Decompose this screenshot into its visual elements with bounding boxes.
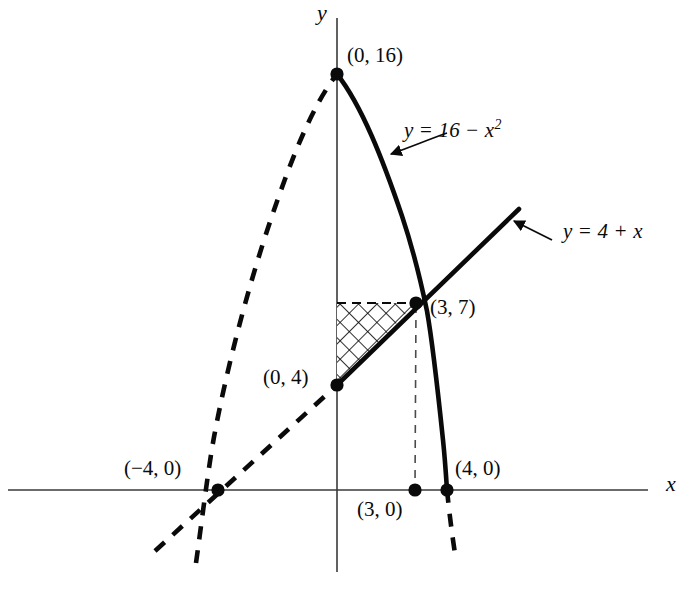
axes-group bbox=[8, 18, 648, 572]
label-point-root-negative: (−4, 0) bbox=[124, 458, 181, 479]
line-eq-constant: 4 bbox=[597, 219, 608, 243]
line-eq-operator: + bbox=[614, 219, 628, 243]
parabola-dashed-lower-tail bbox=[447, 490, 456, 560]
label-point-intersection: (3, 7) bbox=[430, 297, 476, 318]
point-foot-3-0 bbox=[408, 483, 421, 496]
y-axis-label: y bbox=[317, 2, 327, 24]
parabola-eq-constant: 16 bbox=[438, 118, 459, 142]
line-dashed-lower-segment bbox=[155, 385, 337, 551]
label-point-y-intercept: (0, 4) bbox=[263, 367, 309, 388]
label-point-root-positive: (4, 0) bbox=[455, 458, 501, 479]
label-point-vertex: (0, 16) bbox=[347, 45, 403, 66]
line-eq-lhs: y bbox=[563, 219, 573, 243]
point-y-intercept-0-4 bbox=[330, 378, 343, 391]
parabola-eq-lhs: y bbox=[404, 118, 414, 142]
label-point-foot: (3, 0) bbox=[357, 499, 403, 520]
line-solid-upper-segment bbox=[337, 209, 519, 385]
line-eq-equals: = bbox=[578, 219, 592, 243]
parabola-eq-operator: − bbox=[465, 118, 479, 142]
point-root-negative-4-0 bbox=[211, 483, 224, 496]
x-axis-label: x bbox=[666, 473, 676, 495]
annotation-arrows-group bbox=[391, 133, 552, 240]
parabola-equation-label: y = 16 − x2 bbox=[404, 118, 502, 141]
parabola-eq-variable: x bbox=[485, 118, 495, 142]
figure-canvas: y x (0, 16) (3, 7) (0, 4) (−4, 0) (4, 0)… bbox=[0, 0, 689, 596]
point-vertex-0-16 bbox=[330, 67, 343, 80]
point-intersection-3-7 bbox=[409, 296, 422, 309]
graph-svg bbox=[0, 0, 689, 596]
line-eq-variable: x bbox=[633, 219, 643, 243]
point-root-positive-4-0 bbox=[440, 483, 453, 496]
drop-line-dashed bbox=[415, 305, 416, 487]
line-equation-label: y = 4 + x bbox=[563, 221, 643, 242]
parabola-eq-exponent: 2 bbox=[494, 117, 501, 132]
line-label-arrow bbox=[514, 221, 552, 240]
parabola-eq-equals: = bbox=[419, 118, 433, 142]
